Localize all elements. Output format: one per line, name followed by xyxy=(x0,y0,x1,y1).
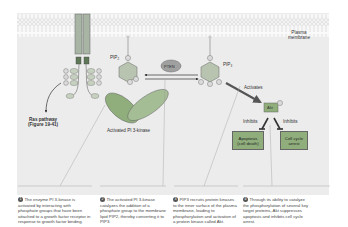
pip3-label: PIP3 xyxy=(223,62,232,69)
cellcycle-line2: arrest xyxy=(285,141,303,146)
plasma-membrane-label: Plasma membrane xyxy=(288,30,310,40)
cell-cycle-arrest-box: Cell cycle arrest xyxy=(280,131,308,150)
membrane-label-line2: membrane xyxy=(288,35,310,40)
inhibits-arrows xyxy=(259,118,283,129)
activates-label: Activates xyxy=(244,85,263,90)
pip2-subscript: 2 xyxy=(117,57,119,61)
ras-line2: (Figure 19-41) xyxy=(28,122,58,127)
caption-1: 1The enzyme PI 3-kinase is activated by … xyxy=(18,197,92,225)
inhibits-left-label: Inhibits xyxy=(243,119,258,124)
apoptosis-line2: (cell death) xyxy=(237,141,258,146)
pi3k-label: Activated PI 3-kinase xyxy=(107,128,150,133)
inhibits-right-label: Inhibits xyxy=(283,119,298,124)
caption-3: 3PIP3 recruits protein kinases to the in… xyxy=(173,197,238,225)
plasma-membrane xyxy=(17,14,329,37)
ras-pathway-label: Ras pathway (Figure 19-41) xyxy=(28,117,58,127)
pip2-label: PIP2 xyxy=(110,55,119,62)
cellcycle-line1: Cell cycle xyxy=(285,136,303,141)
pten-label: PTEN xyxy=(164,64,175,69)
pi3-kinase xyxy=(100,84,173,129)
caption-1-text: The enzyme PI 3-kinase is activated by i… xyxy=(18,197,90,224)
pip3-subscript: 3 xyxy=(230,64,232,68)
pip2-molecule xyxy=(119,35,139,84)
caption-4-text: Through its ability to catalyze the phos… xyxy=(243,197,308,224)
akt-label: Akt xyxy=(267,105,273,110)
apoptosis-line1: Apoptosis xyxy=(237,136,258,141)
apoptosis-box: Apoptosis (cell death) xyxy=(232,131,264,150)
ras-pathway-arrow xyxy=(46,83,61,112)
caption-2-text: The activated PI 3-kinase catalyzes the … xyxy=(100,197,166,224)
akt-phosphate xyxy=(277,100,282,105)
caption-4: 4Through its ability to catalyze the pho… xyxy=(243,197,311,225)
caption-3-text: PIP3 recruits protein kinases to the inn… xyxy=(173,197,237,224)
pip3-molecule xyxy=(198,35,221,86)
caption-2: 2The activated PI 3-kinase catalyzes the… xyxy=(100,197,166,225)
